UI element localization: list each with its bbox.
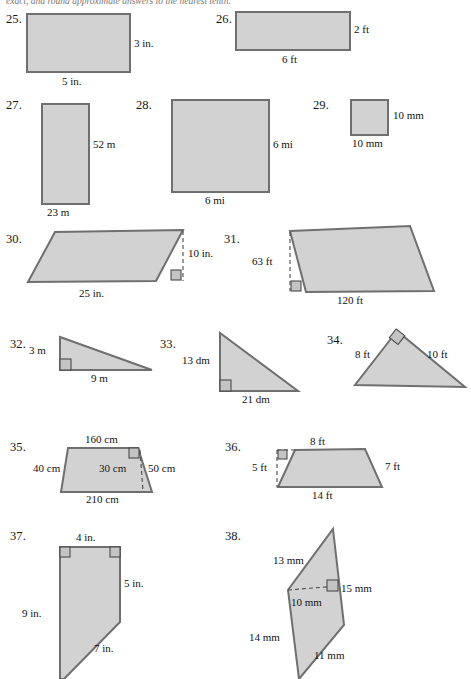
label-38-bottom: 11 mm	[314, 650, 344, 661]
label-38-height: 10 mm	[291, 597, 322, 608]
label-38-upper-left: 13 mm	[273, 555, 304, 566]
label-38-left: 14 mm	[249, 632, 280, 643]
worksheet-page: exact, and round approximate answers to …	[0, 0, 471, 679]
label-38-right: 15 mm	[341, 583, 372, 594]
figure-38-composite	[0, 0, 471, 679]
